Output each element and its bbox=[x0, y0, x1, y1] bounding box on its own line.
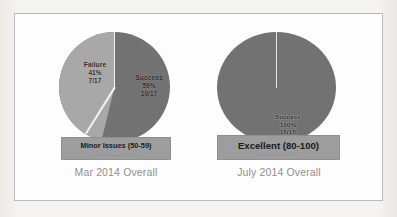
banner-excellent[interactable]: Excellent (80-100) Excellent (80-100) bbox=[217, 135, 340, 160]
pie-divider-top-right bbox=[276, 32, 278, 88]
page-background: Failure 41% 7/17 Success 59% 10/17 Minor… bbox=[0, 0, 397, 217]
chart-area: Failure 41% 7/17 Success 59% 10/17 Minor… bbox=[15, 14, 382, 200]
pie-label-success-july-name: Success bbox=[262, 113, 314, 121]
slide-panel: Failure 41% 7/17 Success 59% 10/17 Minor… bbox=[14, 13, 383, 201]
banner-excellent-title: Excellent (80-100) bbox=[218, 137, 339, 151]
banner-minor-issues-subtitle: Minor Issues (50-59) bbox=[62, 151, 170, 158]
pie-label-failure-percent: 41% bbox=[72, 69, 118, 77]
pie-label-success-mar-fraction: 10/17 bbox=[124, 90, 174, 98]
caption-july-2014: July 2014 Overall bbox=[211, 166, 347, 178]
pie-label-success-mar: Success 59% 10/17 bbox=[124, 74, 174, 98]
pie-label-failure-fraction: 7/17 bbox=[72, 77, 118, 85]
pie-label-success-july: Success 100% 15/15 bbox=[262, 113, 314, 136]
pie-label-failure-name: Failure bbox=[72, 61, 118, 69]
banner-excellent-subtitle: Excellent (80-100) bbox=[218, 151, 339, 158]
banner-minor-issues[interactable]: Minor Issues (50-59) Minor Issues (50-59… bbox=[61, 137, 171, 160]
caption-mar-2014: Mar 2014 Overall bbox=[53, 166, 179, 178]
pie-label-success-mar-name: Success bbox=[124, 74, 174, 82]
pie-label-success-july-percent: 100% bbox=[262, 121, 314, 129]
pie-label-success-mar-percent: 59% bbox=[124, 82, 174, 90]
pie-label-failure: Failure 41% 7/17 bbox=[72, 61, 118, 85]
banner-minor-issues-title: Minor Issues (50-59) bbox=[62, 139, 170, 151]
